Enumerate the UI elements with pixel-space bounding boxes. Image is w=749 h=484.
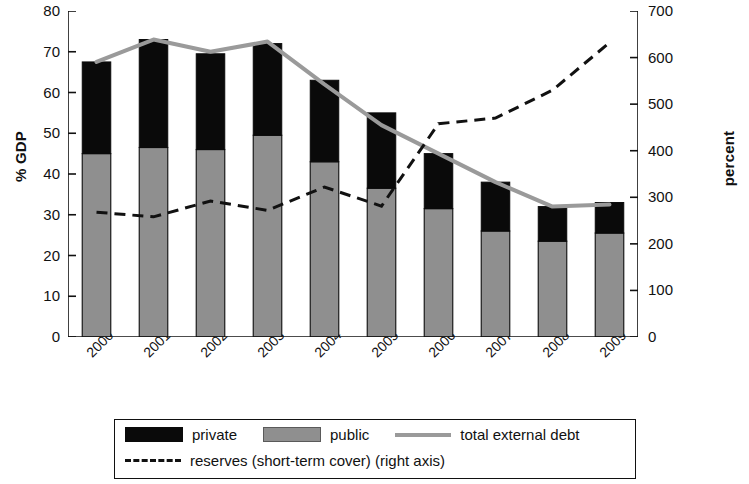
legend-row-primary: private public total external debt bbox=[125, 427, 579, 442]
bar-segment-public bbox=[538, 241, 567, 337]
y-axis-right-tick-label: 600 bbox=[648, 49, 688, 66]
y-axis-right-tick-label: 700 bbox=[648, 2, 688, 19]
bar-segment-private bbox=[139, 40, 168, 148]
legend-line-total-debt-icon bbox=[395, 433, 451, 437]
bar-series-group bbox=[82, 40, 624, 337]
total-external-debt-line bbox=[97, 40, 610, 207]
bar-segment-private bbox=[481, 182, 510, 231]
legend-label-reserves: reserves (short-term cover) (right axis) bbox=[190, 453, 445, 468]
bar-segment-private bbox=[424, 154, 453, 209]
bar-segment-public bbox=[481, 231, 510, 337]
y-axis-left-tick-label: 20 bbox=[26, 247, 60, 264]
y-axis-left-tick-label: 50 bbox=[26, 124, 60, 141]
legend-dashed-line-reserves-icon bbox=[125, 459, 181, 462]
y-axis-left-tick-label: 10 bbox=[26, 287, 60, 304]
bar-segment-private bbox=[595, 203, 624, 234]
y-axis-right-tick-label: 500 bbox=[648, 95, 688, 112]
reserves-line bbox=[97, 43, 610, 217]
total-external-debt-path bbox=[97, 40, 610, 207]
chart-legend: private public total external debt reser… bbox=[114, 419, 636, 479]
y-axis-right-tick-label: 200 bbox=[648, 235, 688, 252]
y-axis-left-tick-label: 70 bbox=[26, 43, 60, 60]
bar-segment-private bbox=[82, 62, 111, 154]
y-axis-right-tick-label: 400 bbox=[648, 142, 688, 159]
legend-swatch-public-icon bbox=[263, 427, 321, 442]
bar-segment-private bbox=[196, 54, 225, 150]
y-axis-left-tick-label: 80 bbox=[26, 2, 60, 19]
reserves-path bbox=[97, 43, 610, 217]
bar-segment-public bbox=[424, 209, 453, 337]
legend-label-public: public bbox=[330, 427, 369, 442]
plot-area bbox=[68, 11, 638, 337]
y-axis-right-tick-label: 100 bbox=[648, 281, 688, 298]
y-axis-right-title: percent bbox=[720, 119, 737, 199]
legend-label-private: private bbox=[192, 427, 237, 442]
legend-label-total-external-debt: total external debt bbox=[460, 427, 579, 442]
bar-segment-public bbox=[253, 135, 282, 337]
y-axis-right-tick-label: 0 bbox=[648, 328, 688, 345]
y-axis-left-tick-label: 40 bbox=[26, 165, 60, 182]
bar-segment-public bbox=[595, 233, 624, 337]
bar-segment-public bbox=[196, 150, 225, 337]
y-axis-left-tick-label: 0 bbox=[26, 328, 60, 345]
y-axis-left-tick-label: 30 bbox=[26, 206, 60, 223]
bar-segment-public bbox=[367, 188, 396, 337]
chart-figure: % GDP percent 01020304050607080 01002003… bbox=[0, 0, 749, 484]
legend-row-secondary: reserves (short-term cover) (right axis) bbox=[125, 453, 445, 468]
y-axis-right-tick-label: 300 bbox=[648, 188, 688, 205]
bar-segment-public bbox=[82, 154, 111, 337]
legend-swatch-private-icon bbox=[125, 427, 183, 442]
bar-segment-private bbox=[253, 44, 282, 136]
bar-segment-private bbox=[538, 207, 567, 242]
y-axis-left-tick-label: 60 bbox=[26, 84, 60, 101]
bar-segment-public bbox=[139, 148, 168, 337]
